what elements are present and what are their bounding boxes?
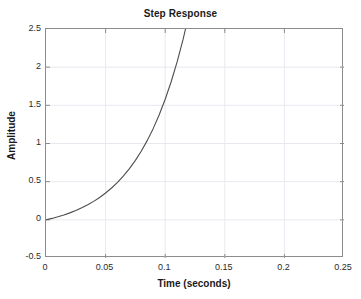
ytick-label: -0.5 bbox=[5, 252, 41, 261]
xtick-label: 0.25 bbox=[323, 263, 361, 272]
xtick-label: 0.15 bbox=[204, 263, 244, 272]
ytick-label: 2.5 bbox=[5, 24, 41, 33]
chart-title: Step Response bbox=[0, 8, 361, 20]
x-axis-label: Time (seconds) bbox=[45, 278, 343, 289]
xtick-label: 0 bbox=[25, 263, 65, 272]
plot-area bbox=[45, 28, 343, 257]
step-response-curve bbox=[46, 29, 344, 258]
ytick-label: 2 bbox=[5, 62, 41, 71]
ytick-label: 0 bbox=[5, 214, 41, 223]
figure-canvas: Step Response bbox=[0, 0, 361, 299]
xtick-label: 0.2 bbox=[263, 263, 303, 272]
y-axis-label: Amplitude bbox=[6, 91, 17, 181]
xtick-label: 0.05 bbox=[85, 263, 125, 272]
x-axis-tick-labels: 0 0.05 0.1 0.15 0.2 0.25 bbox=[0, 263, 361, 277]
xtick-label: 0.1 bbox=[144, 263, 184, 272]
